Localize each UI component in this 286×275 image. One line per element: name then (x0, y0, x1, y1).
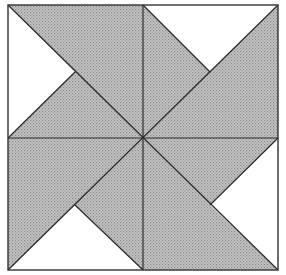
pinwheel-diagram (0, 0, 286, 275)
